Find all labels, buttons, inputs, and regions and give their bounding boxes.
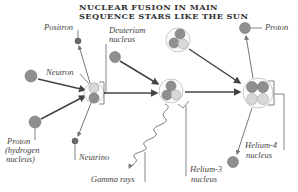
proton-particle-3 [110, 52, 121, 63]
proton-out-top [240, 23, 251, 34]
helium4-proton-1 [247, 82, 258, 93]
helium3-label-2: nucleus [191, 174, 218, 184]
proton-label-3: nucleus) [6, 154, 35, 164]
helium3-incoming-proton-2 [169, 38, 179, 48]
deuterium-label-2: nucleus [109, 34, 136, 44]
neutrino-particle [72, 138, 78, 144]
arrow-proton3-to-helium3 [120, 61, 158, 84]
fusion-diagram: NUCLEAR FUSION IN MAIN SEQUENCE STARS LI… [0, 0, 298, 192]
positron-label: Positron [43, 22, 73, 32]
proton-particle-2 [29, 116, 41, 128]
arrow-helium3-to-helium4-top [189, 49, 240, 83]
proton-out-label: Proton [264, 22, 288, 32]
arrow-to-neutrino [78, 103, 91, 136]
helium3-proton-2 [162, 90, 172, 100]
helium3-proton-1 [166, 81, 176, 91]
arrow-to-positron [79, 46, 90, 83]
title-line-2: SEQUENCE STARS LIKE THE SUN [79, 11, 248, 21]
deuterium-proton [89, 93, 99, 103]
arrow-proton1-to-deuterium [38, 79, 85, 90]
helium4-label-2: nucleus [246, 150, 273, 160]
helium4-proton-2 [258, 82, 269, 93]
arrow-proton2-to-deuterium [41, 96, 85, 119]
helium4-neutron-2 [258, 94, 269, 105]
neutron-label: Neutron [45, 67, 74, 77]
helium3-incoming-proton-1 [175, 29, 185, 39]
helium3-neutron [171, 90, 181, 100]
arrow-to-proton-top [246, 36, 253, 78]
helium4-shell [243, 78, 273, 108]
gamma-rays-label: Gamma rays [91, 174, 135, 184]
positron-particle [75, 38, 81, 44]
neutrino-label: Neutrino [78, 152, 109, 162]
helium4-label-1: Helium-4 [244, 140, 278, 150]
gamma-ray-wave [129, 104, 168, 168]
proton-particle-1 [25, 70, 37, 82]
deuterium-neutron [89, 83, 99, 93]
helium4-neutron-1 [247, 94, 258, 105]
helium3-bracket [178, 101, 189, 108]
proton-out-bottom [228, 157, 239, 168]
helium3-label-1: Helium-3 [189, 164, 222, 174]
helium3-incoming-neutron [178, 39, 188, 49]
